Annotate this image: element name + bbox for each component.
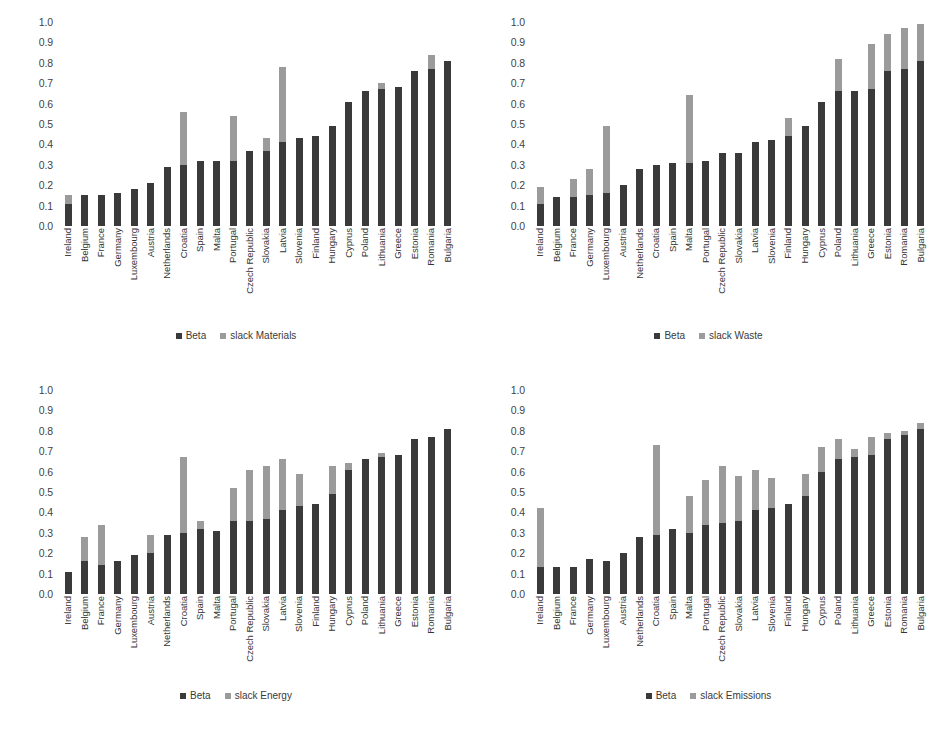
- bar-column[interactable]: [275, 390, 292, 594]
- bar-column[interactable]: [697, 22, 714, 226]
- bar-column[interactable]: [582, 390, 599, 594]
- legend-item-slack[interactable]: slack Energy: [225, 690, 292, 701]
- bar-column[interactable]: [225, 390, 242, 594]
- bar-column[interactable]: [209, 390, 226, 594]
- bar-column[interactable]: [374, 390, 391, 594]
- bar-column[interactable]: [664, 390, 681, 594]
- bar-column[interactable]: [126, 390, 143, 594]
- bar-column[interactable]: [275, 22, 292, 226]
- bar-column[interactable]: [681, 22, 698, 226]
- bar-column[interactable]: [60, 390, 77, 594]
- bar-column[interactable]: [780, 22, 797, 226]
- bar-column[interactable]: [664, 22, 681, 226]
- bar-column[interactable]: [549, 22, 566, 226]
- bar-column[interactable]: [60, 22, 77, 226]
- bar-column[interactable]: [440, 390, 457, 594]
- bar-column[interactable]: [863, 390, 880, 594]
- bar-column[interactable]: [631, 390, 648, 594]
- legend-item-beta[interactable]: Beta: [646, 690, 677, 701]
- bar-column[interactable]: [209, 22, 226, 226]
- bar-column[interactable]: [731, 22, 748, 226]
- bar-column[interactable]: [242, 390, 259, 594]
- bar-column[interactable]: [896, 22, 913, 226]
- bar-column[interactable]: [110, 22, 127, 226]
- bar-column[interactable]: [714, 390, 731, 594]
- bar-column[interactable]: [697, 390, 714, 594]
- bar-column[interactable]: [565, 22, 582, 226]
- bar-column[interactable]: [308, 390, 325, 594]
- bar-column[interactable]: [532, 390, 549, 594]
- bar-column[interactable]: [830, 390, 847, 594]
- bar-column[interactable]: [143, 22, 160, 226]
- bar-column[interactable]: [764, 390, 781, 594]
- bar-column[interactable]: [126, 22, 143, 226]
- bar-column[interactable]: [110, 390, 127, 594]
- legend-item-slack[interactable]: slack Emissions: [690, 690, 771, 701]
- bar-column[interactable]: [341, 390, 358, 594]
- bar-column[interactable]: [176, 390, 193, 594]
- bar-column[interactable]: [77, 390, 94, 594]
- bar-column[interactable]: [830, 22, 847, 226]
- bar-column[interactable]: [896, 390, 913, 594]
- bar-column[interactable]: [747, 22, 764, 226]
- bar-column[interactable]: [780, 390, 797, 594]
- bar-column[interactable]: [93, 390, 110, 594]
- bar-column[interactable]: [407, 22, 424, 226]
- bar-column[interactable]: [341, 22, 358, 226]
- bar-column[interactable]: [324, 22, 341, 226]
- bar-column[interactable]: [242, 22, 259, 226]
- bar-column[interactable]: [258, 22, 275, 226]
- bar-column[interactable]: [598, 390, 615, 594]
- bar-column[interactable]: [291, 22, 308, 226]
- legend-item-beta[interactable]: Beta: [176, 330, 207, 341]
- bar-column[interactable]: [549, 390, 566, 594]
- bar-column[interactable]: [374, 22, 391, 226]
- bar-column[interactable]: [797, 390, 814, 594]
- bar-column[interactable]: [357, 22, 374, 226]
- bar-column[interactable]: [390, 390, 407, 594]
- bar-column[interactable]: [731, 390, 748, 594]
- bar-column[interactable]: [258, 390, 275, 594]
- bar-column[interactable]: [879, 22, 896, 226]
- bar-column[interactable]: [77, 22, 94, 226]
- bar-column[interactable]: [681, 390, 698, 594]
- bar-column[interactable]: [913, 390, 930, 594]
- bar-column[interactable]: [764, 22, 781, 226]
- bar-column[interactable]: [648, 390, 665, 594]
- bar-column[interactable]: [176, 22, 193, 226]
- bar-column[interactable]: [357, 390, 374, 594]
- bar-column[interactable]: [813, 22, 830, 226]
- bar-column[interactable]: [390, 22, 407, 226]
- bar-column[interactable]: [93, 22, 110, 226]
- bar-column[interactable]: [648, 22, 665, 226]
- bar-column[interactable]: [440, 22, 457, 226]
- legend-item-slack[interactable]: slack Waste: [699, 330, 763, 341]
- bar-column[interactable]: [913, 22, 930, 226]
- bar-column[interactable]: [159, 390, 176, 594]
- bar-column[interactable]: [143, 390, 160, 594]
- bar-column[interactable]: [797, 22, 814, 226]
- bar-column[interactable]: [308, 22, 325, 226]
- bar-column[interactable]: [631, 22, 648, 226]
- bar-column[interactable]: [423, 22, 440, 226]
- bar-column[interactable]: [565, 390, 582, 594]
- bar-column[interactable]: [846, 22, 863, 226]
- bar-column[interactable]: [225, 22, 242, 226]
- bar-column[interactable]: [192, 390, 209, 594]
- bar-column[interactable]: [324, 390, 341, 594]
- bar-column[interactable]: [879, 390, 896, 594]
- bar-column[interactable]: [291, 390, 308, 594]
- bar-column[interactable]: [813, 390, 830, 594]
- bar-column[interactable]: [582, 22, 599, 226]
- bar-column[interactable]: [615, 390, 632, 594]
- legend-item-slack[interactable]: slack Materials: [220, 330, 296, 341]
- bar-column[interactable]: [615, 22, 632, 226]
- bar-column[interactable]: [714, 22, 731, 226]
- bar-column[interactable]: [747, 390, 764, 594]
- bar-column[interactable]: [159, 22, 176, 226]
- bar-column[interactable]: [863, 22, 880, 226]
- bar-column[interactable]: [407, 390, 424, 594]
- legend-item-beta[interactable]: Beta: [180, 690, 211, 701]
- legend-item-beta[interactable]: Beta: [654, 330, 685, 341]
- bar-column[interactable]: [532, 22, 549, 226]
